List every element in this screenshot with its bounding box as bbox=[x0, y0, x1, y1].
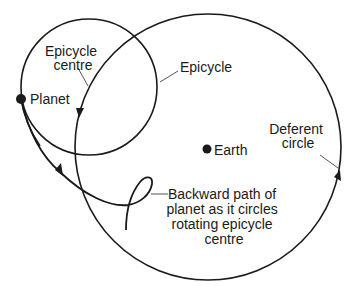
deferent-leader bbox=[320, 155, 338, 168]
epicycle-label: Epicycle bbox=[180, 59, 232, 75]
deferent-arrow-left-icon bbox=[76, 108, 84, 118]
planet-marker bbox=[16, 94, 26, 104]
planet-path bbox=[21, 99, 152, 230]
earth-label: Earth bbox=[214, 142, 247, 158]
epicycle-centre-label: Epicycle centre bbox=[45, 43, 101, 73]
epicycle-diagram: Epicycle centre Epicycle Planet Earth De… bbox=[0, 0, 356, 287]
epicycle-leader bbox=[160, 71, 178, 82]
earth-marker bbox=[203, 145, 212, 154]
backward-path-label: Backward path of planet as it circles ro… bbox=[166, 186, 281, 247]
planet-path-arrow-icon bbox=[55, 163, 63, 176]
planet-label: Planet bbox=[30, 91, 70, 107]
deferent-label: Deferent circle bbox=[269, 121, 327, 151]
